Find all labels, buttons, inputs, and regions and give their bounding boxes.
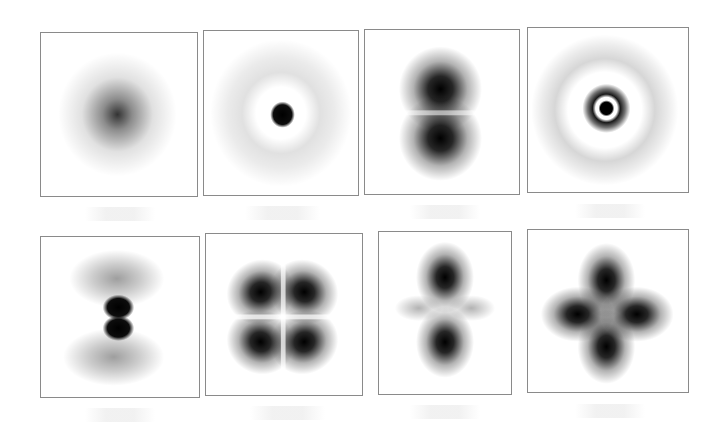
panel-8-caption xyxy=(575,404,645,418)
panel-3 xyxy=(364,29,520,195)
central-dot xyxy=(270,102,295,128)
panel-1-caption xyxy=(85,207,155,221)
panel-6-caption xyxy=(250,406,325,420)
density-lobe xyxy=(58,53,177,177)
density-plot-6 xyxy=(206,234,362,395)
panel-7 xyxy=(378,231,512,395)
density-plot-1 xyxy=(41,33,197,196)
upper-lobe xyxy=(416,242,474,313)
panel-4 xyxy=(527,27,689,193)
density-plot-2 xyxy=(204,31,358,195)
density-plot-3 xyxy=(365,30,519,194)
density-plot-8 xyxy=(528,230,688,392)
panel-3-caption xyxy=(410,205,480,219)
panel-1 xyxy=(40,32,198,197)
panel-2-caption xyxy=(245,206,320,220)
density-plot-4 xyxy=(528,28,688,192)
nodal-plane-horizontal xyxy=(222,315,347,320)
panel-7-caption xyxy=(410,405,480,419)
nodal-plane xyxy=(396,110,488,115)
lower-lobe xyxy=(399,96,482,181)
panel-8 xyxy=(527,229,689,393)
panel-6 xyxy=(205,233,363,396)
panel-5 xyxy=(40,236,200,398)
panel-2 xyxy=(203,30,359,196)
panel-4-caption xyxy=(575,204,645,218)
inner-ring-and-dot xyxy=(582,84,630,133)
lobe-right xyxy=(600,287,674,342)
panel-5-caption xyxy=(85,408,155,422)
density-plot-7 xyxy=(379,232,511,394)
lower-lobe xyxy=(416,307,474,378)
density-plot-5 xyxy=(41,237,199,397)
lower-lobe xyxy=(103,315,135,341)
